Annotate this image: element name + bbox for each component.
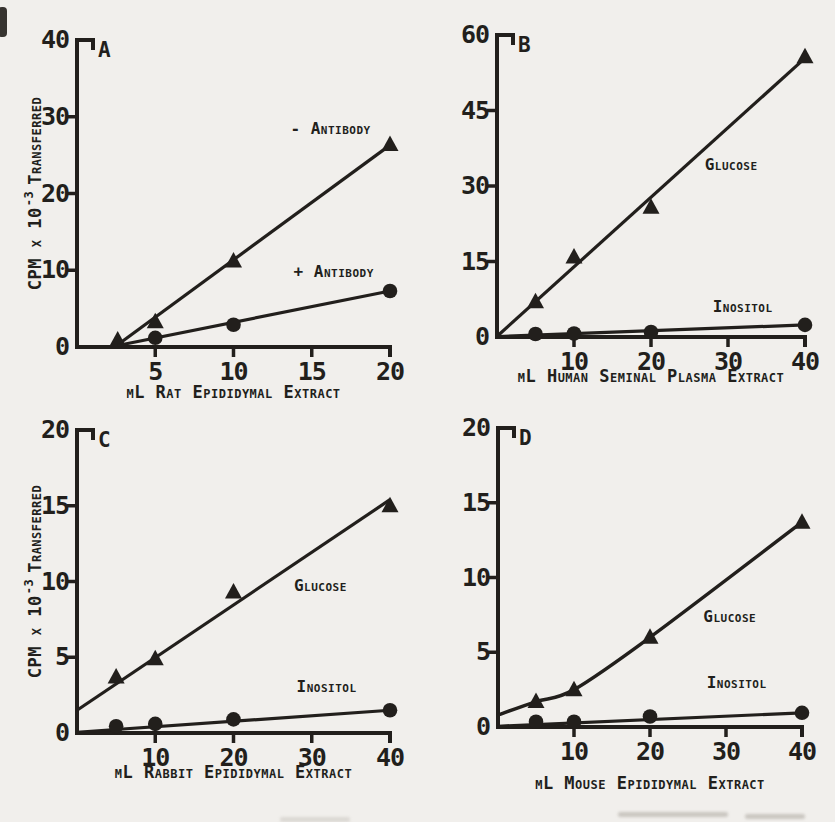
triangle-marker (794, 513, 811, 529)
annotation-antibody: + Antibody (294, 262, 374, 281)
circle-marker (567, 714, 582, 729)
annotation-inositol: Inositol (713, 297, 773, 316)
triangle-marker (566, 681, 583, 697)
y-tick-label: 5 (476, 637, 490, 666)
y-tick-label: 15 (41, 491, 69, 520)
triangle-marker (382, 135, 399, 151)
circle-marker (529, 714, 544, 729)
circle-marker (798, 318, 813, 333)
panel-letter: B (518, 33, 532, 57)
circle-marker (643, 709, 658, 724)
axes (77, 40, 390, 357)
y-tick-label: 5 (55, 642, 69, 671)
x-tick-label: 20 (636, 737, 664, 766)
circle-marker (795, 705, 810, 720)
x-axis-label: µL Rabbit Epididymal Extract (115, 762, 352, 782)
annotation-glucose: Glucose (705, 155, 758, 174)
x-tick-label: 20 (376, 357, 404, 386)
x-tick-label: 40 (376, 743, 404, 772)
y-tick-label: 15 (462, 488, 490, 517)
figure-canvas: 5101520010203040AµL Rat Epididymal Extra… (0, 0, 835, 822)
y-tick-label: 20 (462, 413, 490, 442)
y-tick-label: 45 (461, 96, 489, 125)
scanned-figure-page: 5101520010203040AµL Rat Epididymal Extra… (0, 0, 835, 822)
x-tick-label: 30 (712, 737, 740, 766)
y-tick-label: 30 (461, 171, 489, 200)
trend-line (499, 58, 805, 335)
panel-A: 5101520010203040AµL Rat Epididymal Extra… (22, 25, 404, 402)
y-tick-label: 20 (41, 415, 69, 444)
triangle-marker (643, 198, 660, 214)
series-glucose (499, 48, 814, 335)
x-tick-label: 40 (791, 347, 819, 376)
y-tick-label: 0 (55, 332, 69, 361)
circle-marker (383, 703, 398, 718)
y-tick-label: 0 (476, 712, 490, 741)
trend-line (118, 145, 390, 345)
triangle-marker (797, 48, 814, 64)
y-tick-label: 10 (41, 567, 69, 596)
cutoff-caption-fragment (618, 812, 728, 817)
circle-marker (148, 717, 163, 732)
circle-marker (109, 719, 124, 734)
triangle-marker (225, 583, 242, 599)
x-axis-label: µL Rat Epididymal Extract (126, 382, 340, 402)
circle-marker (528, 327, 543, 342)
x-axis-label: µL Mouse Epididymal Extract (535, 773, 765, 793)
series-inositol (77, 703, 397, 734)
y-tick-label: 20 (41, 179, 69, 208)
circle-marker (226, 317, 241, 332)
x-tick-label: 40 (788, 737, 816, 766)
y-tick-label: 0 (475, 322, 489, 351)
x-tick-label: 10 (560, 737, 588, 766)
circle-marker (226, 712, 241, 727)
y-tick-label: 40 (41, 25, 69, 54)
y-tick-label: 60 (461, 20, 489, 49)
triangle-marker (566, 248, 583, 264)
panel-letter: A (98, 38, 112, 62)
circle-marker (383, 284, 398, 299)
y-tick-label: 15 (461, 247, 489, 276)
panel-C: 1020304005101520CµL Rabbit Epididymal Ex… (22, 415, 404, 782)
annotation-inositol: Inositol (707, 673, 767, 692)
triangle-marker (108, 668, 125, 684)
triangle-marker (642, 628, 659, 644)
y-tick-label: 30 (41, 102, 69, 131)
series-antibody (109, 135, 398, 346)
annotation-antibody: - Antibody (290, 119, 370, 138)
x-axis-label: µL Human Seminal Plasma Extract (518, 366, 785, 386)
panel-letter: C (98, 428, 112, 452)
annotation-glucose: Glucose (294, 576, 347, 595)
circle-marker (644, 325, 659, 340)
circle-marker (148, 330, 163, 345)
annotation-inositol: Inositol (297, 677, 357, 696)
cutoff-caption-fragment (745, 814, 805, 819)
y-tick-label: 10 (41, 255, 69, 284)
y-tick-label: 0 (55, 718, 69, 747)
panel-letter: D (519, 426, 533, 450)
circle-marker (567, 326, 582, 341)
panel-D: 1020304005101520DµL Mouse Epididymal Ext… (462, 413, 816, 793)
cutoff-caption-fragment (280, 817, 350, 822)
y-tick-label: 10 (462, 563, 490, 592)
annotation-glucose: Glucose (703, 607, 756, 626)
panel-B: 10203040015304560BµL Human Seminal Plasm… (461, 20, 819, 386)
